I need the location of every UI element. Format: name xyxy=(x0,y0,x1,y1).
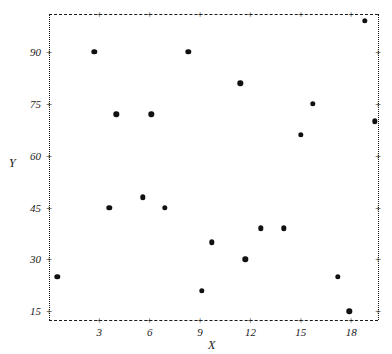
data-point xyxy=(209,240,214,245)
x-axis-title: X xyxy=(208,339,215,351)
x-tick-mark-top: + xyxy=(96,9,102,20)
plot-frame-left-edge xyxy=(49,14,50,320)
data-point xyxy=(372,118,377,123)
y-tick-mark-right: + xyxy=(375,47,381,58)
y-axis-tick-label: 30 xyxy=(30,254,41,265)
data-point xyxy=(140,195,145,200)
plot-frame-right-edge xyxy=(378,14,379,320)
data-point xyxy=(281,226,286,231)
y-axis-tick-label: 45 xyxy=(30,202,41,213)
x-tick-mark-top: + xyxy=(298,9,304,20)
y-axis-tick-label: 90 xyxy=(30,47,41,58)
data-point xyxy=(186,49,191,54)
data-point xyxy=(310,101,315,106)
data-point xyxy=(243,257,248,262)
x-tick-mark-top: + xyxy=(197,9,203,20)
data-point xyxy=(149,112,154,117)
scatter-plot-figure: ++++++++++++++++++++++++ 907560453015 36… xyxy=(0,0,392,354)
y-tick-mark-right: + xyxy=(375,254,381,265)
data-point xyxy=(258,226,263,231)
x-axis-tick-label: 12 xyxy=(245,327,256,338)
x-axis-tick-label: 6 xyxy=(147,327,153,338)
data-point xyxy=(199,288,204,293)
y-tick-mark-left: + xyxy=(46,98,52,109)
y-tick-mark-right: + xyxy=(375,150,381,161)
y-tick-mark-right: + xyxy=(375,306,381,317)
x-tick-mark-bottom: + xyxy=(348,315,354,326)
x-tick-mark-bottom: + xyxy=(147,315,153,326)
data-point xyxy=(238,80,243,85)
y-tick-mark-left: + xyxy=(46,202,52,213)
x-tick-mark-bottom: + xyxy=(96,315,102,326)
x-tick-mark-top: + xyxy=(147,9,153,20)
y-tick-mark-right: + xyxy=(375,98,381,109)
y-tick-mark-left: + xyxy=(46,47,52,58)
y-axis-tick-label: 75 xyxy=(30,98,41,109)
data-point xyxy=(107,205,112,210)
y-axis-tick-label: 15 xyxy=(30,306,41,317)
y-axis-tick-label: 60 xyxy=(30,150,41,161)
x-tick-mark-bottom: + xyxy=(298,315,304,326)
plot-area: ++++++++++++++++++++++++ xyxy=(49,14,378,320)
y-axis-title: Y xyxy=(9,157,16,169)
x-axis-tick-label: 9 xyxy=(197,327,203,338)
x-axis-tick-label: 18 xyxy=(346,327,357,338)
y-tick-mark-left: + xyxy=(46,306,52,317)
data-point xyxy=(335,274,340,279)
x-tick-mark-top: + xyxy=(247,9,253,20)
x-tick-mark-top: + xyxy=(348,9,354,20)
data-point xyxy=(298,132,303,137)
data-point xyxy=(113,112,118,117)
data-point xyxy=(162,205,167,210)
y-tick-mark-right: + xyxy=(375,202,381,213)
x-tick-mark-bottom: + xyxy=(197,315,203,326)
x-tick-mark-bottom: + xyxy=(247,315,253,326)
data-point xyxy=(362,18,367,23)
data-point xyxy=(55,274,60,279)
y-tick-mark-left: + xyxy=(46,254,52,265)
x-axis-tick-label: 3 xyxy=(97,327,103,338)
data-point xyxy=(92,49,97,54)
x-axis-tick-label: 15 xyxy=(295,327,306,338)
y-tick-mark-left: + xyxy=(46,150,52,161)
